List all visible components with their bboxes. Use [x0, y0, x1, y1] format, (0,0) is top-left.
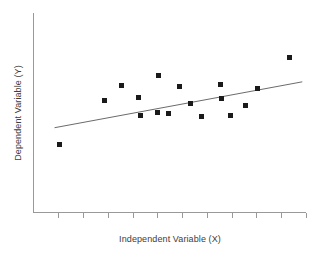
- x-axis-label: Independent Variable (X): [119, 234, 221, 244]
- data-point-marker: [155, 110, 160, 115]
- data-points-group: [57, 55, 292, 147]
- data-point-marker: [218, 82, 223, 87]
- y-axis-label: Dependent Variable (Y): [13, 65, 23, 161]
- data-point-marker: [243, 103, 248, 108]
- data-point-marker: [255, 86, 260, 91]
- data-point-marker: [156, 73, 161, 78]
- scatter-plot-figure: Independent Variable (X) Dependent Varia…: [0, 0, 335, 260]
- data-point-marker: [57, 142, 62, 147]
- x-axis-ticks: [59, 213, 307, 218]
- data-point-marker: [219, 96, 224, 101]
- data-point-marker: [138, 113, 143, 118]
- data-point-marker: [119, 83, 124, 88]
- data-point-marker: [199, 114, 204, 119]
- data-point-marker: [287, 55, 292, 60]
- data-point-marker: [177, 84, 182, 89]
- plot-canvas: Independent Variable (X) Dependent Varia…: [0, 0, 335, 260]
- data-point-marker: [188, 101, 193, 106]
- data-point-marker: [166, 111, 171, 116]
- data-point-marker: [228, 113, 233, 118]
- data-point-marker: [136, 95, 141, 100]
- data-point-marker: [102, 98, 107, 103]
